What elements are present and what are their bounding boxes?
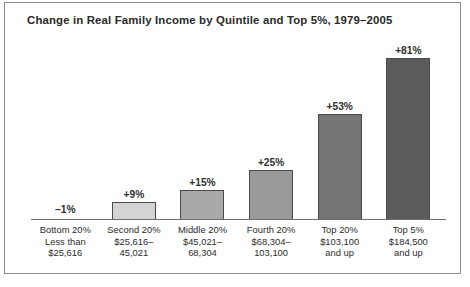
figure-root: Change in Real Family Income by Quintile…: [0, 0, 470, 287]
x-tick-range-1: Less than: [31, 236, 100, 248]
bar-value-label: +81%: [395, 45, 421, 56]
bar-slot-fourth-20: +25%: [237, 39, 306, 220]
x-tick-range-1: $45,021–: [168, 236, 237, 248]
x-tick-range-1: $68,304–: [237, 236, 306, 248]
x-tick-range-2: 103,100: [237, 247, 306, 259]
x-tick-top-5: Top 5% $184,500 and up: [374, 224, 443, 259]
x-tick-range-1: $103,100: [305, 236, 374, 248]
bar-value-label: –1%: [55, 204, 75, 215]
chart-panel: Change in Real Family Income by Quintile…: [4, 2, 461, 274]
x-tick-range-2: 45,021: [100, 247, 169, 259]
x-tick-top-20: Top 20% $103,100 and up: [305, 224, 374, 259]
bar-slot-top-20: +53%: [305, 39, 374, 220]
plot-area: –1% +9% +15% +25% +53%: [31, 39, 443, 220]
page-title: Change in Real Family Income by Quintile…: [27, 14, 392, 26]
x-tick-name: Bottom 20%: [31, 224, 100, 236]
x-tick-name: Middle 20%: [168, 224, 237, 236]
x-tick-range-2: $25,616: [31, 247, 100, 259]
x-tick-name: Top 20%: [305, 224, 374, 236]
bar-slot-second-20: +9%: [100, 39, 169, 220]
x-tick-name: Fourth 20%: [237, 224, 306, 236]
bar-value-label: +53%: [327, 101, 353, 112]
bar-slot-middle-20: +15%: [168, 39, 237, 220]
x-tick-range-2: 68,304: [168, 247, 237, 259]
x-tick-range-2: and up: [374, 247, 443, 259]
bar-second-20[interactable]: +9%: [112, 202, 156, 220]
bar-top-20[interactable]: +53%: [318, 114, 362, 220]
x-tick-name: Second 20%: [100, 224, 169, 236]
bar-value-label: +15%: [189, 177, 215, 188]
bar-top-5[interactable]: +81%: [386, 58, 430, 220]
bar-slot-top-5: +81%: [374, 39, 443, 220]
x-tick-name: Top 5%: [374, 224, 443, 236]
x-tick-range-1: $25,616–: [100, 236, 169, 248]
x-tick-second-20: Second 20% $25,616– 45,021: [100, 224, 169, 259]
x-tick-middle-20: Middle 20% $45,021– 68,304: [168, 224, 237, 259]
bar-value-label: +9%: [124, 189, 145, 200]
x-tick-range-2: and up: [305, 247, 374, 259]
x-tick-range-1: $184,500: [374, 236, 443, 248]
bar-value-label: +25%: [258, 157, 284, 168]
bar-slot-bottom-20: –1%: [31, 39, 100, 220]
bar-fourth-20[interactable]: +25%: [249, 170, 293, 220]
x-axis-labels: Bottom 20% Less than $25,616 Second 20% …: [31, 224, 443, 272]
x-tick-bottom-20: Bottom 20% Less than $25,616: [31, 224, 100, 259]
bar-middle-20[interactable]: +15%: [180, 190, 224, 220]
x-tick-fourth-20: Fourth 20% $68,304– 103,100: [237, 224, 306, 259]
x-axis-line: [31, 219, 446, 220]
